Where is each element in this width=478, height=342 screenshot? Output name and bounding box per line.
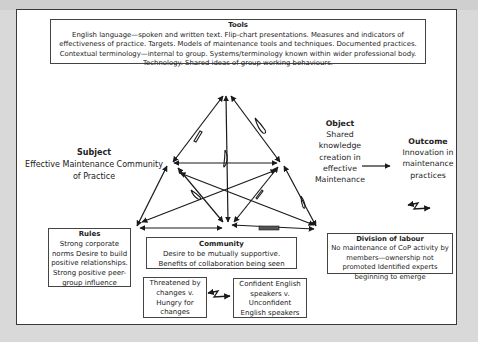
arrow-subject-community: [178, 168, 223, 222]
contradiction-mark-community-division: [259, 226, 279, 230]
activity-triangle-arrows: [0, 0, 478, 342]
arrow-tools-subject: [173, 96, 223, 162]
arrow-subject-rules: [137, 166, 167, 226]
arrow-object-community: [234, 167, 278, 222]
arrow-object-rules: [142, 170, 276, 222]
arrow-object-division: [284, 166, 316, 226]
contradiction-mark-subject-community: [191, 190, 201, 199]
tension-lightning-arrow: [208, 291, 230, 297]
arrow-tools-object: [231, 96, 280, 162]
contradiction-mark-object-community: [256, 190, 263, 199]
legend-lightning-arrow: [408, 203, 430, 209]
